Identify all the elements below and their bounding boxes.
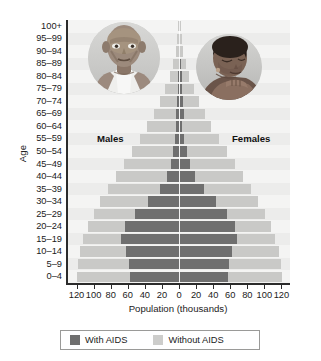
y-axis-label: 45–49: [14, 159, 62, 169]
y-axis-label: 55–59: [14, 133, 62, 143]
x-axis-tick-labels: 12010080604020020406080100120: [66, 290, 290, 302]
bar-female-with-aids: [179, 184, 204, 194]
bar-male-with-aids: [171, 159, 179, 169]
bar-male-with-aids: [121, 234, 179, 244]
x-axis-label: 40: [140, 290, 150, 301]
x-axis-label: 100: [86, 290, 102, 301]
y-axis-label: 85–89: [14, 58, 62, 68]
bar-male-with-aids: [129, 259, 179, 269]
y-axis-label: 40–44: [14, 171, 62, 181]
x-axis-tick: [77, 285, 78, 289]
bar-male-with-aids: [135, 209, 179, 219]
chart-legend: With AIDS Without AIDS: [60, 330, 260, 350]
y-axis-label: 5–9: [14, 259, 62, 269]
y-axis-label: 30–34: [14, 196, 62, 206]
y-axis-tick-labels: 100+95–9990–9485–8980–8475–7970–7465–696…: [14, 20, 62, 285]
population-pyramid-chart: Age 100+95–9990–9485–8980–8475–7970–7465…: [0, 0, 321, 361]
x-axis-label: 80: [106, 290, 116, 301]
y-axis-label: 15–19: [14, 234, 62, 244]
y-axis-label: 25–29: [14, 209, 62, 219]
bar-female-with-aids: [179, 146, 187, 156]
label-males: Males: [97, 133, 124, 144]
y-axis-label: 35–39: [14, 184, 62, 194]
x-axis-label: 120: [274, 290, 290, 301]
x-axis-label: 100: [257, 290, 273, 301]
x-axis-tick: [94, 285, 95, 289]
bar-female-with-aids: [179, 159, 190, 169]
x-axis-tick: [281, 285, 282, 289]
y-axis-label: 95–99: [14, 33, 62, 43]
x-axis-tick: [111, 285, 112, 289]
bar-male-without-aids: [132, 146, 179, 156]
y-axis-label: 50–54: [14, 146, 62, 156]
bar-female-with-aids: [179, 259, 229, 269]
bar-male-without-aids: [154, 109, 179, 119]
x-axis-tick: [230, 285, 231, 289]
y-axis-label: 100+: [14, 21, 62, 31]
bar-female-with-aids: [179, 272, 228, 282]
bar-male-with-aids: [160, 184, 179, 194]
label-females: Females: [232, 133, 270, 144]
x-axis-tick: [162, 285, 163, 289]
x-axis-label: 80: [242, 290, 252, 301]
bar-female-without-aids: [179, 121, 211, 131]
legend-swatch-without-aids: [153, 335, 163, 345]
photo-male-patient: [88, 22, 160, 94]
x-axis-tick: [247, 285, 248, 289]
bar-male-with-aids: [130, 272, 179, 282]
y-axis-label: 10–14: [14, 246, 62, 256]
center-axis-line: [179, 20, 180, 283]
x-axis-label: 20: [191, 290, 201, 301]
bar-female-with-aids: [179, 171, 195, 181]
x-axis-label: 60: [123, 290, 133, 301]
photo-female-patient: [196, 34, 262, 100]
y-axis-label: 70–74: [14, 96, 62, 106]
y-axis-label: 65–69: [14, 108, 62, 118]
y-axis-label: 20–24: [14, 221, 62, 231]
bar-male-with-aids: [167, 171, 179, 181]
y-axis-label: 75–79: [14, 83, 62, 93]
y-axis-label: 60–64: [14, 121, 62, 131]
x-axis-label: 120: [69, 290, 85, 301]
x-axis-tick: [145, 285, 146, 289]
x-axis-tick: [179, 285, 180, 289]
bar-male-without-aids: [160, 96, 179, 106]
bar-female-with-aids: [179, 246, 232, 256]
x-axis-label: 60: [225, 290, 235, 301]
legend-item-with-aids: With AIDS: [70, 335, 127, 345]
legend-label-without-aids: Without AIDS: [168, 335, 223, 345]
bar-male-with-aids: [126, 246, 179, 256]
bar-female-without-aids: [179, 134, 219, 144]
y-axis-label: 80–84: [14, 71, 62, 81]
legend-swatch-with-aids: [70, 335, 80, 345]
x-axis-label: 20: [157, 290, 167, 301]
legend-item-without-aids: Without AIDS: [153, 335, 223, 345]
bar-female-with-aids: [179, 196, 216, 206]
bar-female-with-aids: [179, 234, 237, 244]
x-axis-tick: [128, 285, 129, 289]
x-axis-label: 40: [208, 290, 218, 301]
bar-female-with-aids: [179, 209, 227, 219]
x-axis-title: Population (thousands): [66, 303, 290, 314]
x-axis-tick: [213, 285, 214, 289]
bar-male-with-aids: [125, 221, 179, 231]
bar-male-with-aids: [148, 196, 179, 206]
bar-male-without-aids: [147, 121, 179, 131]
bar-female-with-aids: [179, 221, 235, 231]
x-axis-label: 0: [176, 290, 181, 301]
legend-label-with-aids: With AIDS: [85, 335, 127, 345]
y-axis-label: 90–94: [14, 46, 62, 56]
bar-male-without-aids: [140, 134, 179, 144]
y-axis-label: 0–4: [14, 271, 62, 281]
x-axis-tick: [264, 285, 265, 289]
x-axis-tick: [196, 285, 197, 289]
